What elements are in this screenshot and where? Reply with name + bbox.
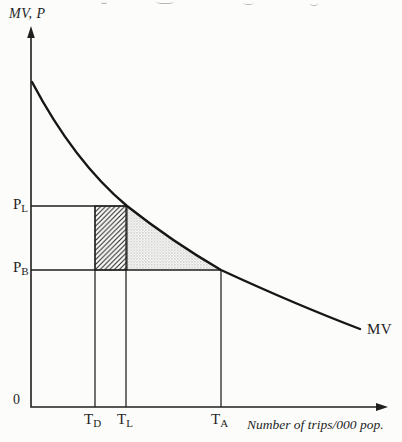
origin-label: 0 <box>13 393 20 407</box>
axis-arrowheads <box>27 26 388 411</box>
y-axis-title: MV, P <box>9 7 45 21</box>
quantity-label-TL: TL <box>117 412 133 427</box>
quantity-label-TD: TD <box>84 412 101 427</box>
price-label-PL: PL <box>13 197 28 212</box>
plot-canvas <box>0 0 402 442</box>
x-axis-title: Number of trips/000 pop. <box>247 418 384 432</box>
hatched-rectangle-area <box>95 206 127 270</box>
axes <box>31 30 384 407</box>
price-label-PB: PB <box>13 260 29 275</box>
economics-figure-mv-curve: MV, P 0 PL PB TD TL TA Number of trips/0… <box>0 0 402 442</box>
quantity-label-TA: TA <box>211 412 228 427</box>
curve-label-MV: MV <box>367 322 392 337</box>
